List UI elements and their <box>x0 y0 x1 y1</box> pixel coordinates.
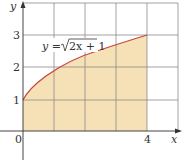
y-axis-label: y <box>9 0 17 13</box>
y-axis-arrow-icon <box>21 1 26 8</box>
origin-label: 0 <box>15 133 22 146</box>
x-tick-4: 4 <box>144 133 151 146</box>
x-axis-label: x <box>171 133 178 146</box>
equation-prefix: y = <box>41 40 61 53</box>
y-tick-1: 1 <box>13 94 20 107</box>
y-tick-2: 2 <box>13 61 20 74</box>
equation-radicand: 2x + 1 <box>69 40 105 53</box>
area-under-curve-chart: y x 0 4 1 2 3 y = 2x + 1 <box>0 0 187 160</box>
y-tick-3: 3 <box>13 29 20 42</box>
